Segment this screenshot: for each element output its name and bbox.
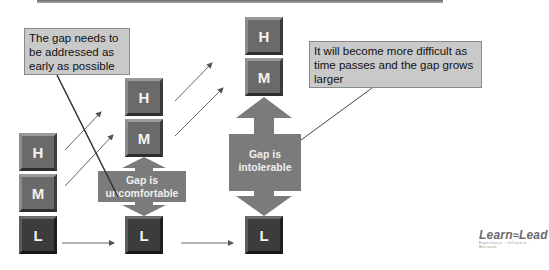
key-high-col1: H xyxy=(19,133,57,171)
callout-early-text: The gap needs to be addressed as early a… xyxy=(29,32,119,72)
key-medium-col2: M xyxy=(125,119,163,157)
key-label: L xyxy=(259,227,268,244)
key-label: M xyxy=(32,185,45,202)
arrow-m-to-m-2 xyxy=(175,88,223,136)
gap-label-right: Gap is intolerable xyxy=(236,148,294,174)
key-label: M xyxy=(258,69,271,86)
callout-later: It will become more difficult as time pa… xyxy=(309,41,482,88)
key-low-col3: L xyxy=(245,216,283,254)
key-label: H xyxy=(259,28,270,45)
key-low-col1: L xyxy=(19,216,57,254)
key-label: L xyxy=(139,227,148,244)
key-label: L xyxy=(33,227,42,244)
gap-label-right-text: Gap is intolerable xyxy=(238,148,291,173)
key-label: H xyxy=(33,144,44,161)
key-label: M xyxy=(138,130,151,147)
key-low-col2: L xyxy=(125,216,163,254)
key-medium-col1: M xyxy=(19,174,57,212)
key-medium-col3: M xyxy=(245,58,283,96)
key-label: H xyxy=(139,89,150,106)
gap-label-middle: Gap is uncomfortable xyxy=(98,174,186,200)
gap-label-middle-text: Gap is uncomfortable xyxy=(106,174,179,199)
key-high-col3: H xyxy=(245,17,283,55)
key-high-col2: H xyxy=(125,78,163,116)
callout-later-text: It will become more difficult as time pa… xyxy=(314,45,473,85)
arrow-h-to-h xyxy=(65,112,101,150)
arrow-h-to-h-2 xyxy=(175,63,212,101)
callout-early: The gap needs to be addressed as early a… xyxy=(24,28,130,75)
